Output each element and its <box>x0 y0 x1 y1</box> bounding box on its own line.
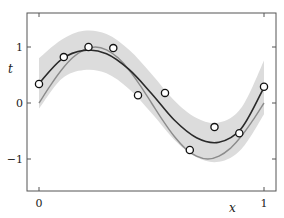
y-axis-label: t <box>8 62 13 76</box>
x-tick-label: 1 <box>261 197 268 210</box>
data-point <box>186 146 193 153</box>
data-point <box>161 89 168 96</box>
data-point <box>60 54 67 61</box>
axis-ticks: 01−101 <box>7 13 276 210</box>
y-tick-label: 0 <box>16 97 23 110</box>
x-tick-label: 0 <box>36 197 43 210</box>
data-point <box>260 83 267 90</box>
x-axis-label: x <box>229 201 236 215</box>
y-tick-label: −1 <box>7 153 23 166</box>
plot-area <box>35 30 267 162</box>
uncertainty-band <box>39 30 264 162</box>
chart: 01−101 t x <box>0 0 284 218</box>
data-point <box>211 124 218 131</box>
data-point <box>236 130 243 137</box>
data-point <box>134 92 141 99</box>
data-point <box>110 45 117 52</box>
data-point <box>35 80 42 87</box>
y-tick-label: 1 <box>16 41 23 54</box>
data-point <box>85 43 92 50</box>
